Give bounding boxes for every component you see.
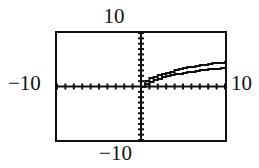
calculator-screen-frame <box>55 31 227 142</box>
plotted-curves <box>141 62 225 87</box>
axis-label-bottom: −10 <box>0 143 231 164</box>
calculator-graph-figure: 10 −10 10 −10 <box>0 0 259 168</box>
axis-label-top: 10 <box>0 6 228 27</box>
axis-label-right: 10 <box>231 73 252 94</box>
axis-label-left: −10 <box>8 73 41 94</box>
plot-area <box>57 33 225 140</box>
